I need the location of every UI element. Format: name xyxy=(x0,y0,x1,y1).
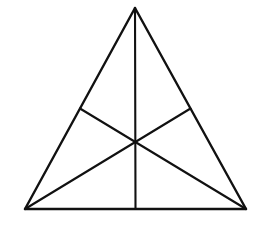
median-from-b xyxy=(25,109,191,210)
median-from-a xyxy=(135,8,136,209)
median-from-c xyxy=(80,109,246,210)
triangle-medians-diagram xyxy=(0,0,267,239)
triangle-medians xyxy=(25,8,246,209)
